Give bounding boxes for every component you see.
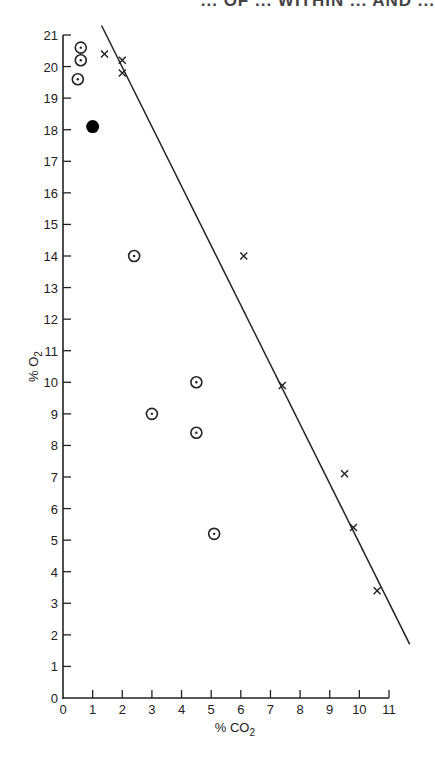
x-tick-label: 2 xyxy=(119,702,126,717)
y-tick-label: 11 xyxy=(45,344,59,359)
y-tick-label: 19 xyxy=(44,91,58,106)
x-tick-label: 7 xyxy=(267,702,274,717)
marker-center-dot xyxy=(80,46,82,48)
x-tick-label: 1 xyxy=(89,702,96,717)
x-tick-label: 5 xyxy=(208,702,215,717)
y-tick-label: 4 xyxy=(51,565,58,580)
y-tick-label: 2 xyxy=(51,628,58,643)
cross-marker xyxy=(101,50,108,57)
y-tick-label: 12 xyxy=(44,312,58,327)
x-tick-label: 6 xyxy=(237,702,244,717)
trend-line xyxy=(102,26,410,645)
marker-center-dot xyxy=(77,78,79,80)
x-tick-label: 9 xyxy=(326,702,333,717)
marker-center-dot xyxy=(195,381,197,383)
marker-center-dot xyxy=(151,413,153,415)
y-tick-label: 20 xyxy=(44,60,58,75)
cross-marker xyxy=(119,57,126,64)
y-tick-label: 17 xyxy=(44,154,58,169)
x-tick-label: 3 xyxy=(148,702,155,717)
marker-center-dot xyxy=(133,255,135,257)
cross-marker xyxy=(341,470,348,477)
marker-center-dot xyxy=(195,432,197,434)
cross-marker xyxy=(240,253,247,260)
cross-marker xyxy=(374,587,381,594)
y-tick-label: 16 xyxy=(44,186,58,201)
y-tick-label: 13 xyxy=(44,281,58,296)
filled-circle-marker xyxy=(86,120,99,133)
y-tick-label: 5 xyxy=(51,533,58,548)
y-tick-label: 7 xyxy=(51,470,58,485)
y-tick-label: 14 xyxy=(44,249,58,264)
y-tick-label: 0 xyxy=(51,691,58,706)
x-tick-label: 8 xyxy=(296,702,303,717)
y-tick-label: 21 xyxy=(44,28,58,43)
y-tick-label: 8 xyxy=(51,438,58,453)
y-tick-label: 1 xyxy=(51,659,58,674)
y-tick-label: 10 xyxy=(44,375,58,390)
marker-center-dot xyxy=(213,533,215,535)
y-tick-label: 6 xyxy=(51,502,58,517)
marker-center-dot xyxy=(80,59,82,61)
y-tick-label: 9 xyxy=(51,407,58,422)
x-tick-label: 0 xyxy=(59,702,66,717)
x-tick-label: 11 xyxy=(382,702,396,717)
x-tick-label: 10 xyxy=(352,702,366,717)
y-tick-label: 18 xyxy=(44,123,58,138)
x-tick-label: 4 xyxy=(178,702,185,717)
y-axis-label: % O2 xyxy=(26,351,44,382)
y-tick-label: 15 xyxy=(44,217,58,232)
x-axis-label: % CO2 xyxy=(215,720,256,738)
scatter-chart: 0123456789101101234567891011121314151617… xyxy=(0,0,435,762)
y-tick-label: 3 xyxy=(51,596,58,611)
